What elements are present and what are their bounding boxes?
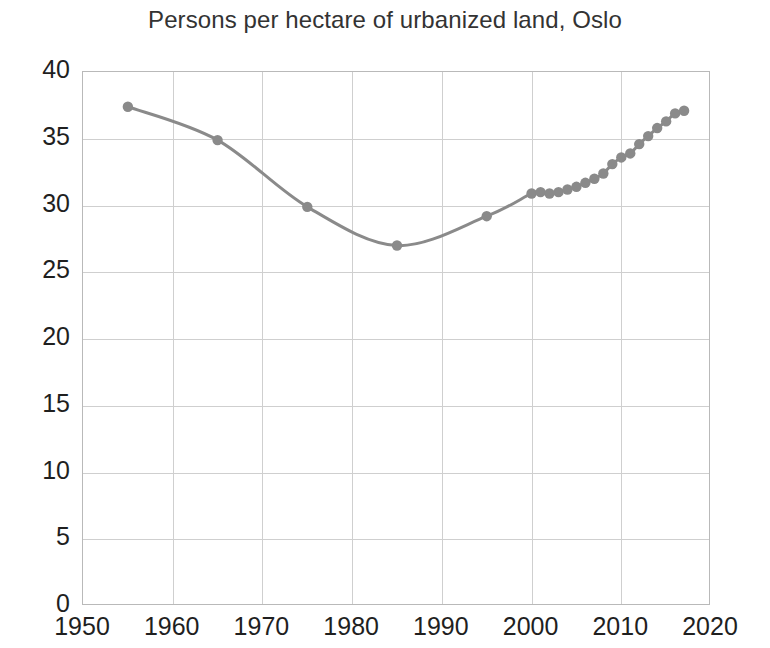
data-point-marker [392, 240, 402, 250]
y-axis-tick-label: 30 [42, 189, 70, 218]
y-axis-tick-label: 5 [56, 522, 70, 551]
data-point-marker [535, 187, 545, 197]
plot-area [82, 71, 710, 605]
data-point-marker [679, 106, 689, 116]
y-axis-tick-label: 25 [42, 255, 70, 284]
y-axis-tick-label: 40 [42, 55, 70, 84]
data-point-marker [598, 168, 608, 178]
x-axis-tick-label: 1950 [42, 612, 122, 641]
data-point-marker [616, 152, 626, 162]
data-point-marker [607, 159, 617, 169]
data-point-marker [634, 139, 644, 149]
data-point-marker [589, 174, 599, 184]
data-point-marker [302, 202, 312, 212]
y-axis-tick-label: 15 [42, 389, 70, 418]
data-point-marker [580, 178, 590, 188]
x-axis-tick-label: 1990 [401, 612, 481, 641]
data-point-marker [482, 211, 492, 221]
x-axis-tick-label: 1980 [311, 612, 391, 641]
data-point-marker [544, 188, 554, 198]
x-axis-tick-label: 1970 [221, 612, 301, 641]
data-point-marker [625, 148, 635, 158]
y-axis-tick-label: 20 [42, 322, 70, 351]
x-axis-tick-label: 2000 [491, 612, 571, 641]
data-series-layer [83, 72, 711, 606]
y-axis-tick-label: 10 [42, 456, 70, 485]
data-point-marker [571, 182, 581, 192]
chart-title: Persons per hectare of urbanized land, O… [0, 6, 770, 34]
data-point-marker [123, 102, 133, 112]
data-point-marker [553, 187, 563, 197]
data-point-marker [526, 188, 536, 198]
data-point-marker [652, 123, 662, 133]
data-point-marker [643, 131, 653, 141]
x-axis-tick-label: 2020 [670, 612, 750, 641]
y-axis-tick-label: 35 [42, 122, 70, 151]
data-point-marker [670, 108, 680, 118]
x-axis-tick-label: 1960 [132, 612, 212, 641]
data-point-marker [661, 116, 671, 126]
data-point-marker [562, 184, 572, 194]
data-point-marker [212, 135, 222, 145]
x-axis-tick-label: 2010 [580, 612, 660, 641]
chart-container: Persons per hectare of urbanized land, O… [0, 0, 770, 648]
